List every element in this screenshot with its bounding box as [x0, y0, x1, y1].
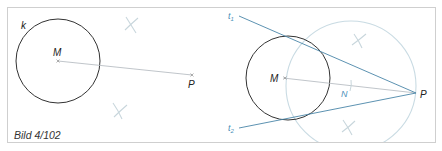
construction-mark-bottom-right — [342, 120, 355, 135]
right-panel: M P N t1 t2 — [228, 11, 436, 151]
tangent-construction-figure: k M P Bild 4/102 — [0, 0, 442, 151]
label-k: k — [21, 20, 27, 31]
segment-mp-right — [283, 78, 416, 93]
left-panel: k M P Bild 4/102 — [14, 17, 195, 141]
label-p-right: P — [420, 89, 427, 100]
construction-mark-top-right — [352, 34, 366, 48]
circle-k-right — [246, 36, 330, 120]
tangent-t1 — [239, 16, 416, 93]
label-t2-sub: 2 — [230, 128, 235, 134]
construction-mark-bottom — [113, 103, 127, 119]
label-t1: t1 — [228, 11, 234, 22]
construction-mark-top — [125, 17, 138, 33]
label-t1-sub: 1 — [231, 16, 234, 22]
figure-frame — [8, 8, 436, 143]
tangent-t2 — [239, 93, 416, 128]
segment-mp — [58, 61, 192, 75]
label-n: N — [341, 89, 348, 99]
label-p: P — [188, 79, 195, 90]
label-m-right: M — [270, 73, 279, 84]
label-m: M — [53, 47, 62, 58]
label-t2: t2 — [228, 123, 235, 134]
figure-caption: Bild 4/102 — [14, 129, 61, 141]
